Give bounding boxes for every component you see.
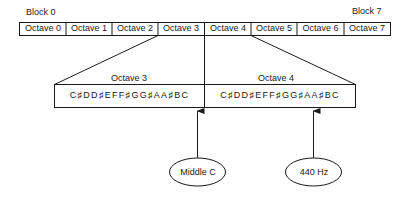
expanded-octave-4-title: Octave 4: [258, 74, 294, 83]
octave-cell-2: Octave 2: [112, 22, 158, 35]
octave-cell-4: Octave 4: [205, 22, 251, 35]
octave-cell-3: Octave 3: [158, 22, 204, 35]
octave-cell-0: Octave 0: [20, 22, 66, 35]
octave-3-notes: C♯DD♯EFF♯GG♯AA♯BC: [55, 84, 204, 107]
middle-c-label: Middle C: [170, 168, 226, 177]
octave-cell-7: Octave 7: [344, 22, 390, 35]
a440-label: 440 Hz: [286, 168, 342, 177]
octave-cell-5: Octave 5: [251, 22, 297, 35]
octave-cell-1: Octave 1: [66, 22, 112, 35]
octave-cell-6: Octave 6: [297, 22, 344, 35]
block-7-label: Block 7: [352, 7, 382, 16]
octave-4-notes: C♯DD♯EFF♯GG♯AA♯BC: [205, 84, 355, 107]
expanded-octave-3-title: Octave 3: [111, 74, 147, 83]
block-0-label: Block 0: [26, 8, 56, 17]
